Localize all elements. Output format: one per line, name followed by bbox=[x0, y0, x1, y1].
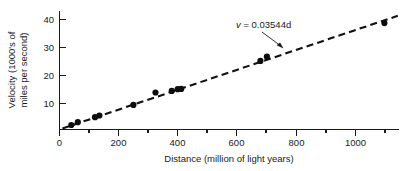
regression-fit-line bbox=[62, 16, 397, 129]
x-axis-title: Distance (million of light years) bbox=[164, 153, 293, 164]
y-tick-label-40: 40 bbox=[43, 14, 54, 25]
equation-rest: = 0.03544d bbox=[241, 19, 291, 30]
data-point bbox=[152, 89, 158, 95]
x-tick-label-200: 200 bbox=[111, 137, 127, 148]
y-tick-label-10: 10 bbox=[43, 98, 54, 109]
y-axis-title: Velocity (1000's of miles per second) bbox=[6, 31, 29, 108]
data-point bbox=[75, 119, 81, 125]
equation-annotation: v = 0.03544d bbox=[236, 19, 291, 49]
y-tick-label-30: 30 bbox=[43, 42, 54, 53]
hubble-velocity-distance-chart: 40 30 20 10 0 200 400 600 800 bbox=[0, 0, 406, 171]
y-axis-ticks: 40 30 20 10 bbox=[43, 14, 65, 109]
y-axis-title-line1: Velocity (1000's of bbox=[6, 31, 17, 108]
data-point bbox=[178, 86, 184, 92]
x-tick-label-600: 600 bbox=[229, 137, 245, 148]
x-tick-label-1000: 1000 bbox=[345, 137, 366, 148]
data-point bbox=[68, 122, 74, 128]
data-point bbox=[130, 102, 136, 108]
data-point bbox=[264, 54, 270, 60]
chart-canvas: 40 30 20 10 0 200 400 600 800 bbox=[0, 0, 406, 171]
x-axis-ticks: 0 200 400 600 800 1000 bbox=[57, 130, 385, 149]
data-point bbox=[169, 88, 175, 94]
data-point bbox=[96, 112, 102, 118]
y-tick-label-20: 20 bbox=[43, 70, 54, 81]
x-tick-label-800: 800 bbox=[289, 137, 305, 148]
x-tick-label-400: 400 bbox=[170, 137, 186, 148]
x-tick-label-0: 0 bbox=[57, 137, 62, 148]
data-point bbox=[257, 58, 263, 64]
equation-annotation-text: v = 0.03544d bbox=[236, 19, 291, 30]
y-axis-title-line2: miles per second) bbox=[18, 33, 29, 108]
data-point bbox=[381, 20, 387, 26]
